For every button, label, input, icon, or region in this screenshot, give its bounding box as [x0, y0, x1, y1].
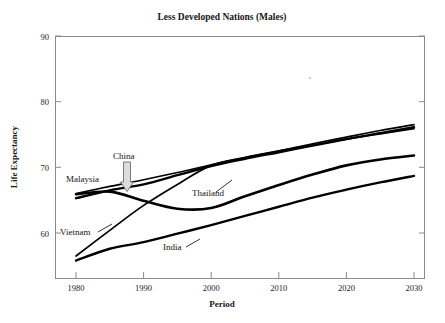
x-tick-label-1990: 1990 — [135, 283, 152, 293]
series-label-china: China — [113, 151, 135, 161]
series-label-vietnam: Vietnam — [60, 227, 90, 237]
label-leader-india — [186, 239, 200, 247]
y-axis-label: Life Expectancy — [9, 125, 19, 188]
plot-frame — [56, 37, 425, 279]
y-tick-label-80: 80 — [41, 97, 50, 107]
x-tick-label-1980: 1980 — [68, 283, 85, 293]
line-chart: Less Developed Nations (Males) 90 80 70 … — [0, 0, 445, 323]
series-label-india: India — [163, 242, 182, 252]
series-curves — [76, 125, 414, 261]
series-line-vietnam — [76, 129, 414, 256]
print-speck — [309, 77, 311, 79]
x-axis-label: Period — [209, 299, 235, 309]
chart-title: Less Developed Nations (Males) — [157, 12, 286, 23]
y-tick-label-90: 90 — [41, 32, 50, 42]
y-tick-label-70: 70 — [41, 163, 50, 173]
x-tick-label-2000: 2000 — [203, 283, 220, 293]
x-tick-label-2010: 2010 — [270, 283, 287, 293]
x-tick-label-2020: 2020 — [338, 283, 355, 293]
x-tick-label-2030: 2030 — [406, 283, 423, 293]
chart-container: Less Developed Nations (Males) 90 80 70 … — [0, 0, 445, 323]
y-tick-label-60: 60 — [41, 229, 50, 239]
x-axis-ticks: 1980 1990 2000 2010 2020 2030 — [68, 272, 423, 293]
series-label-malaysia: Malaysia — [66, 174, 99, 184]
series-label-thailand: Thailand — [192, 188, 224, 198]
